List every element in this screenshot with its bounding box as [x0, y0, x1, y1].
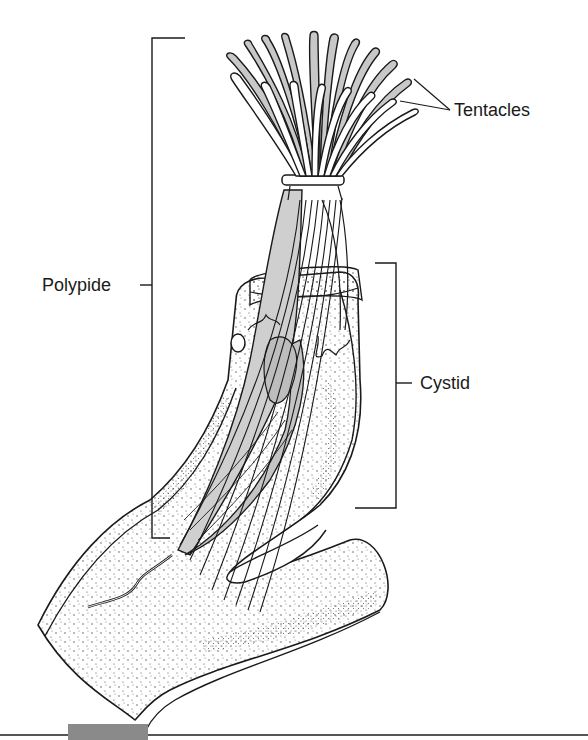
polypide-bracket	[140, 38, 185, 538]
cystid-bracket	[355, 263, 412, 508]
label-tentacles: Tentacles	[454, 101, 530, 119]
label-cystid: Cystid	[420, 374, 470, 392]
diagram-canvas: Tentacles Polypide Cystid	[0, 0, 588, 740]
tentacle-crown	[227, 32, 419, 177]
footer-tab-marker	[68, 724, 148, 740]
label-polypide: Polypide	[42, 276, 111, 294]
